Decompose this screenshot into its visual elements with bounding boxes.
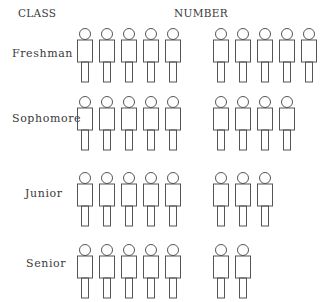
figure-group [0,172,322,232]
person-icon [77,172,93,228]
person-icon [165,244,181,300]
person-icon [213,96,229,152]
person-icon [121,28,137,84]
person-icon [165,96,181,152]
figure-group [0,28,322,88]
person-icon [257,172,273,228]
person-icon [213,172,229,228]
person-icon [213,28,229,84]
person-icon [257,28,273,84]
person-icon [235,96,251,152]
person-icon [143,244,159,300]
person-icon [99,172,115,228]
person-icon [99,244,115,300]
person-icon [143,28,159,84]
person-icon [165,172,181,228]
person-icon [143,96,159,152]
person-icon [279,96,295,152]
person-icon [77,244,93,300]
person-icon [121,96,137,152]
figure-group [0,244,322,302]
person-icon [279,28,295,84]
person-icon [235,28,251,84]
person-icon [121,172,137,228]
person-icon [165,28,181,84]
number-column-header: NUMBER [174,7,228,19]
person-icon [235,244,251,300]
person-icon [99,28,115,84]
person-icon [301,28,317,84]
person-icon [121,244,137,300]
class-column-header: CLASS [18,7,56,19]
person-icon [257,96,273,152]
person-icon [77,28,93,84]
person-icon [77,96,93,152]
person-icon [213,244,229,300]
person-icon [99,96,115,152]
person-icon [143,172,159,228]
person-icon [235,172,251,228]
figure-group [0,96,322,156]
